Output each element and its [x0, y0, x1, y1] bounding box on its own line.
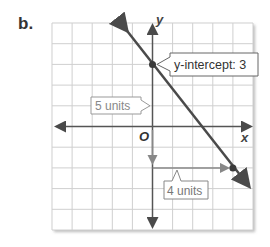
y-intercept-point	[149, 61, 156, 68]
second-point	[229, 164, 236, 171]
y-intercept-label: y-intercept: 3	[174, 58, 246, 72]
y-intercept-callout: y-intercept: 3	[157, 53, 258, 76]
coordinate-graph: y-intercept: 3 5 units 4 units y x O	[0, 0, 270, 247]
origin-label: O	[139, 129, 149, 144]
y-axis-label: y	[155, 12, 164, 27]
x-axis-label: x	[240, 130, 249, 145]
rise-callout: 5 units	[91, 97, 150, 114]
run-label: 4 units	[167, 184, 202, 198]
rise-label: 5 units	[95, 99, 130, 113]
